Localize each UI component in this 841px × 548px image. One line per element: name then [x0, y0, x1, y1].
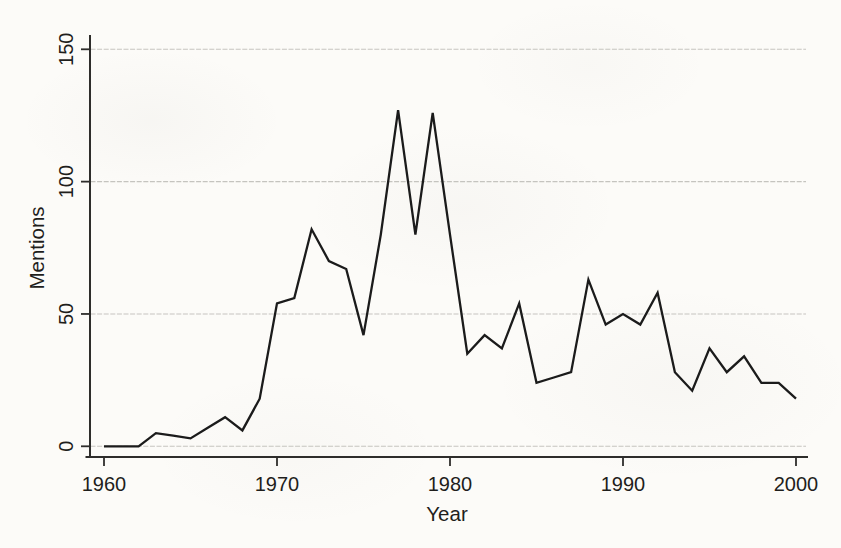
gridlines-layer: [91, 49, 807, 446]
y-tick-label: 150: [55, 33, 77, 66]
axes-layer: [81, 35, 808, 466]
x-axis-title: Year: [426, 502, 468, 525]
x-tick-label: 1970: [255, 473, 300, 495]
scanned-line-chart-figure: 05010015019601970198019902000 Mentions Y…: [0, 0, 841, 548]
y-tick-label: 0: [55, 441, 77, 452]
x-tick-label: 1990: [601, 473, 646, 495]
y-axis-title: Mentions: [25, 206, 48, 289]
y-tick-label: 100: [55, 165, 77, 198]
data-series-layer: [104, 110, 796, 446]
mentions-data-line: [104, 110, 796, 446]
x-tick-label: 1980: [428, 473, 473, 495]
x-tick-label: 2000: [774, 473, 819, 495]
x-tick-label: 1960: [82, 473, 127, 495]
tick-labels-layer: 05010015019601970198019902000: [55, 33, 818, 495]
y-tick-label: 50: [55, 303, 77, 325]
chart-svg: 05010015019601970198019902000 Mentions Y…: [0, 0, 841, 548]
